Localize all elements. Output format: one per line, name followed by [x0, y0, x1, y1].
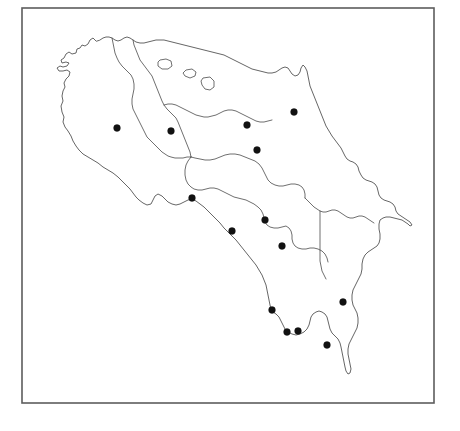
site-marker-site-10[interactable]	[269, 307, 276, 314]
map-figure	[0, 0, 460, 431]
country-outline-group	[57, 37, 412, 374]
site-marker-site-03[interactable]	[244, 122, 251, 129]
site-marker-site-12[interactable]	[295, 328, 302, 335]
costa-rica-country-outline	[57, 37, 412, 374]
site-marker-site-08[interactable]	[229, 228, 236, 235]
site-marker-site-13[interactable]	[340, 299, 347, 306]
site-marker-site-01[interactable]	[114, 125, 121, 132]
site-marker-site-05[interactable]	[254, 147, 261, 154]
islet-1	[158, 59, 172, 69]
costa-rica-map-canvas	[0, 0, 460, 431]
site-marker-site-09[interactable]	[279, 243, 286, 250]
site-marker-site-14[interactable]	[324, 342, 331, 349]
site-marker-site-04[interactable]	[291, 109, 298, 116]
site-marker-site-07[interactable]	[262, 217, 269, 224]
site-marker-site-02[interactable]	[168, 128, 175, 135]
site-marker-site-11[interactable]	[284, 329, 291, 336]
site-marker-site-06[interactable]	[189, 195, 196, 202]
